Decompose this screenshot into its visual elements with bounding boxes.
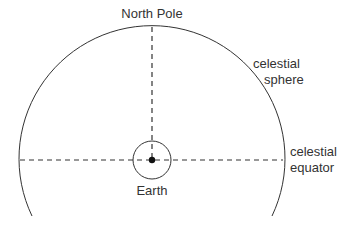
celestial-sphere-label-line1: celestial	[253, 56, 300, 72]
celestial-sphere-diagram: North Pole celestial sphere celestial eq…	[0, 0, 349, 226]
earth-label: Earth	[122, 183, 182, 199]
north-pole-label: North Pole	[112, 6, 192, 22]
celestial-sphere-label-line2: sphere	[264, 72, 304, 88]
celestial-equator-label-line2: equator	[290, 160, 334, 176]
celestial-equator-label-line1: celestial	[290, 144, 337, 160]
earth-center-dot	[149, 157, 155, 163]
